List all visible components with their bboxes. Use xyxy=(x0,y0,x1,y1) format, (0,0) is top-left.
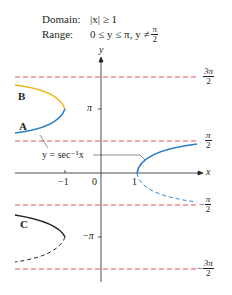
asymptote-label-neg-3pi-2: − 3π 2 xyxy=(197,259,214,278)
tick-label-0: 0 xyxy=(92,176,97,187)
tick-label-pi: π xyxy=(87,102,92,113)
x-axis-label: x xyxy=(206,166,210,177)
curve-right-solid xyxy=(137,144,197,173)
curve-label-b: B xyxy=(18,90,25,102)
asymptote-label-neg-pi-2: − π 2 xyxy=(199,195,211,214)
curve-right-dashed xyxy=(137,173,197,202)
x-axis-arrow-icon xyxy=(198,171,203,175)
curve-label-a: A xyxy=(19,120,27,132)
tick-label-neg1: −1 xyxy=(58,176,69,187)
function-label: y = sec⁻¹x xyxy=(42,149,84,160)
asymptote-label-pi-2: π 2 xyxy=(205,131,212,150)
graph-canvas xyxy=(0,0,232,295)
curve-c-dashed xyxy=(15,237,65,262)
curve-label-c: C xyxy=(20,218,28,230)
leader-to-a xyxy=(40,135,48,148)
asymptote-label-3pi-2: 3π 2 xyxy=(203,67,214,86)
tick-label-neg-pi: −π xyxy=(82,230,94,241)
tick-label-1: 1 xyxy=(132,176,137,187)
y-axis-arrow-icon xyxy=(99,57,103,62)
y-axis-label: y xyxy=(99,44,103,55)
